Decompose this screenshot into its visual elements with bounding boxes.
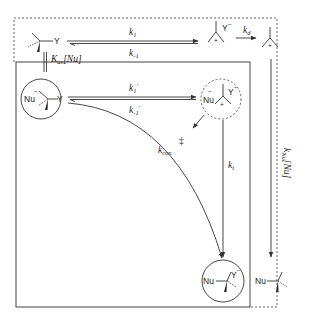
reaction-scheme-diagram: Y k1 k-1 + Y − kd + kNu[Nu] Kas[Nu]	[0, 0, 310, 321]
free-product: Nu	[255, 272, 287, 292]
Kas-label: Kas[Nu]	[50, 54, 82, 65]
k1-prime-label: k1'	[129, 82, 138, 94]
substrate-molecule: Y	[28, 33, 60, 52]
kt-arrow: kt	[223, 120, 234, 257]
svg-text:Y: Y	[57, 94, 63, 104]
svg-text:−: −	[234, 84, 238, 91]
kNu-label: kNu[Nu]	[281, 148, 292, 179]
svg-text:−: −	[237, 267, 241, 274]
svg-text:+: +	[214, 37, 218, 44]
svg-text:Nu: Nu	[255, 276, 266, 286]
transition-state-symbol: ‡	[179, 136, 184, 146]
svg-text:+: +	[220, 101, 224, 108]
k-minus1-prime-label: k-1'	[129, 104, 141, 116]
svg-text:−: −	[208, 88, 212, 95]
kNu-arrow: kNu[Nu]	[271, 59, 292, 257]
kcon-concerted-path: kcon	[68, 103, 222, 258]
svg-text:+: +	[268, 42, 272, 49]
preassociation-complex: Nu − Y	[21, 79, 63, 119]
kcon-label: kcon	[158, 145, 172, 156]
product-complex: Nu Y −	[202, 260, 244, 302]
svg-text:Nu: Nu	[203, 276, 214, 286]
carbocation-ion-pair: + Y −	[208, 21, 232, 44]
kd-arrow: kd	[236, 25, 256, 38]
k-minus1-label: k-1	[129, 48, 139, 59]
k1-prime-equilibrium: k1' k-1'	[68, 82, 196, 116]
k1-label: k1	[129, 27, 136, 38]
free-carbocation: +	[262, 27, 278, 49]
svg-text:−: −	[228, 21, 232, 28]
k1-equilibrium-arrows: k1 k-1	[67, 27, 198, 59]
substrate-leaving-group: Y	[54, 36, 60, 46]
ion-triple-to-ts-arrow	[193, 115, 204, 128]
kd-label: kd	[243, 25, 251, 36]
svg-text:Nu: Nu	[24, 94, 35, 104]
svg-text:−: −	[34, 88, 38, 95]
kt-label: kt	[228, 160, 234, 171]
ion-triple-complex: Nu − + Y −	[201, 79, 241, 119]
svg-text:Nu: Nu	[203, 95, 214, 105]
